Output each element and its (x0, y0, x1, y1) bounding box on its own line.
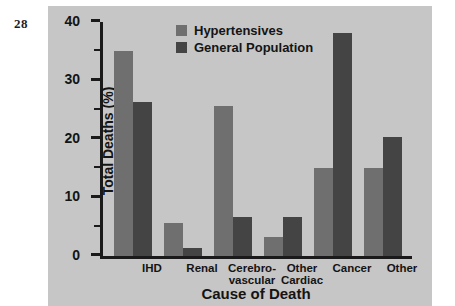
bar-hypertensives[interactable] (214, 106, 233, 256)
y-axis-tick: 40 (91, 19, 100, 22)
y-axis-tick-label: 0 (72, 247, 80, 263)
y-axis-tick-label: 20 (64, 130, 80, 146)
bar-general-population[interactable] (333, 33, 352, 256)
x-axis-title: Cause of Death (100, 285, 412, 302)
y-axis-minor-tick (94, 108, 100, 110)
bar-hypertensives[interactable] (364, 168, 383, 256)
y-axis-tick-label: 30 (64, 71, 80, 87)
chart-plot-area: Total Deaths (%) 010203040 IHDRenalCereb… (100, 22, 412, 259)
bar-hypertensives[interactable] (164, 223, 183, 256)
legend-label: General Population (194, 40, 313, 55)
legend-item: General Population (176, 39, 313, 56)
bar-hypertensives[interactable] (314, 168, 333, 256)
chart-legend: HypertensivesGeneral Population (176, 22, 313, 56)
legend-item: Hypertensives (176, 22, 313, 39)
bar-general-population[interactable] (233, 217, 252, 256)
bar-hypertensives[interactable] (114, 51, 133, 256)
figure-panel: Total Deaths (%) 010203040 IHDRenalCereb… (48, 6, 432, 306)
bar-hypertensives[interactable] (264, 237, 283, 256)
legend-swatch-icon (176, 25, 187, 36)
y-axis-tick: 0 (91, 253, 100, 256)
y-axis-minor-tick (94, 166, 100, 168)
y-axis-tick-label: 10 (64, 188, 80, 204)
y-axis-minor-tick (94, 225, 100, 227)
x-axis-tick-label-line: Other (356, 263, 448, 275)
y-axis-tick-label: 40 (64, 13, 80, 29)
y-axis-tick: 20 (91, 136, 100, 139)
y-axis-tick: 10 (91, 195, 100, 198)
legend-swatch-icon (176, 42, 187, 53)
legend-label: Hypertensives (194, 23, 283, 38)
bar-general-population[interactable] (283, 217, 302, 256)
bar-general-population[interactable] (183, 248, 202, 256)
bar-general-population[interactable] (133, 102, 152, 256)
y-axis-tick: 30 (91, 78, 100, 81)
y-axis-minor-tick (94, 49, 100, 51)
bar-general-population[interactable] (383, 137, 402, 256)
page-number: 28 (14, 16, 28, 32)
x-axis-tick-label: Other (356, 263, 448, 275)
x-axis-line (100, 256, 412, 259)
